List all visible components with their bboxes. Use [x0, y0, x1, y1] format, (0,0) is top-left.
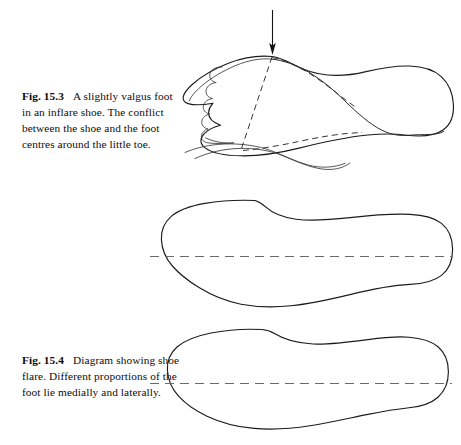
figure-15-4-caption: Fig. 15.4Diagram showing shoe flare. Dif…: [22, 352, 180, 400]
shoe-upper-dashed-line: [273, 58, 357, 108]
shoe-outline: [183, 56, 453, 156]
figure-15-3-caption: Fig. 15.3A slightly valgus foot in an in…: [22, 88, 180, 152]
shoe-centre-dashed-axis: [242, 57, 273, 149]
foot-plantar-border: [185, 144, 345, 167]
diagram-valgus-foot-in-inflare-shoe: [183, 10, 453, 169]
straight-last-outline: [161, 200, 452, 307]
figure-15-3-number: Fig. 15.3: [22, 90, 64, 102]
diagram-shoe-last-outline-upper: [150, 200, 453, 307]
figure-15-4-number: Fig. 15.4: [22, 354, 64, 366]
foot-outsole-edge: [195, 148, 350, 169]
foot-outline: [272, 59, 444, 135]
foot-forefoot-arc: [189, 59, 272, 101]
toe-scallops: [201, 67, 233, 144]
flared-last-outline: [167, 329, 448, 429]
foot-medial-border: [206, 138, 234, 143]
conflict-arrow-icon: [269, 10, 276, 55]
diagram-shoe-last-outline-lower: [150, 329, 452, 429]
figure-page: Fig. 15.3A slightly valgus foot in an in…: [0, 0, 461, 445]
shoe-sole-dashed-line: [243, 133, 362, 151]
